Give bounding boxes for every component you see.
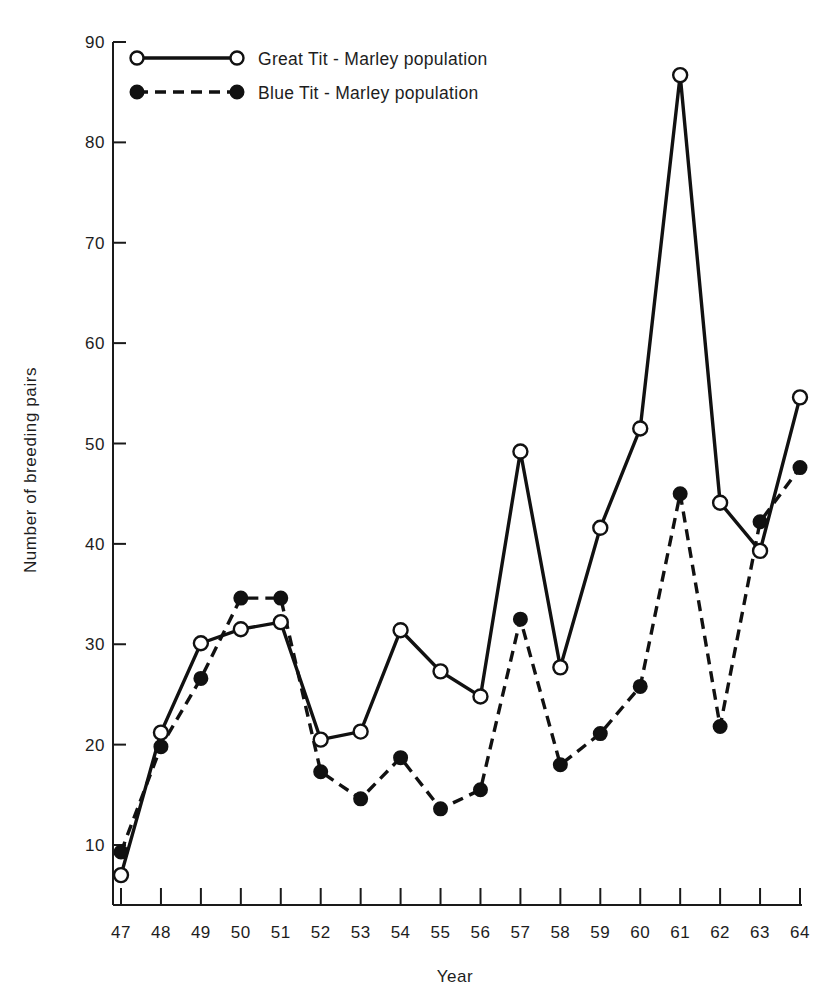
data-point-great-tit [434, 664, 448, 678]
y-tick-label: 70 [85, 234, 105, 253]
data-point-blue-tit [234, 592, 247, 605]
data-point-great-tit [314, 733, 328, 747]
y-tick-label: 30 [85, 635, 105, 654]
data-point-blue-tit [674, 487, 687, 500]
x-tick-label: 48 [151, 923, 171, 942]
x-tick-label: 51 [271, 923, 291, 942]
data-point-great-tit [593, 521, 607, 535]
data-point-blue-tit [394, 751, 407, 764]
data-point-blue-tit [474, 783, 487, 796]
data-point-great-tit [633, 421, 647, 435]
x-tick-label: 54 [391, 923, 411, 942]
data-point-great-tit [194, 636, 208, 650]
data-point-blue-tit [554, 758, 567, 771]
y-tick-label: 90 [85, 33, 105, 52]
legend-marker-open-circle-right [231, 52, 244, 65]
data-point-blue-tit [794, 461, 807, 474]
x-axis-title: Year [437, 967, 474, 986]
x-tick-label: 61 [670, 923, 690, 942]
x-tick-label: 53 [351, 923, 371, 942]
data-point-great-tit [553, 660, 567, 674]
x-tick-label: 59 [590, 923, 610, 942]
data-point-blue-tit [194, 672, 207, 685]
y-tick-label: 40 [85, 535, 105, 554]
x-tick-label: 55 [431, 923, 451, 942]
x-tick-label: 62 [710, 923, 730, 942]
legend-marker-filled-circle-right [231, 86, 244, 99]
data-point-great-tit [513, 445, 527, 459]
x-tick-label: 63 [750, 923, 770, 942]
x-tick-label: 56 [471, 923, 491, 942]
data-point-great-tit [354, 725, 368, 739]
y-tick-label: 80 [85, 133, 105, 152]
y-axis-title: Number of breeding pairs [21, 367, 40, 573]
data-point-blue-tit [514, 613, 527, 626]
data-point-great-tit [114, 868, 128, 882]
x-tick-label: 58 [550, 923, 570, 942]
legend-marker-filled-circle-left [131, 86, 144, 99]
y-tick-label: 50 [85, 435, 105, 454]
legend-label-great-tit: Great Tit - Marley population [258, 49, 488, 69]
data-point-blue-tit [754, 515, 767, 528]
data-point-blue-tit [634, 680, 647, 693]
y-tick-label: 20 [85, 736, 105, 755]
legend-marker-open-circle-left [131, 52, 144, 65]
breeding-pairs-line-chart: 102030405060708090 Number of breeding pa… [0, 0, 816, 1005]
data-point-great-tit [673, 68, 687, 82]
data-point-great-tit [713, 496, 727, 510]
x-tick-label: 47 [111, 923, 131, 942]
data-point-great-tit [154, 726, 168, 740]
data-point-great-tit [234, 622, 248, 636]
data-point-blue-tit [594, 727, 607, 740]
data-point-great-tit [793, 390, 807, 404]
data-point-blue-tit [714, 720, 727, 733]
x-tick-label: 52 [311, 923, 331, 942]
y-tick-label: 60 [85, 334, 105, 353]
x-tick-label: 50 [231, 923, 251, 942]
x-tick-label: 49 [191, 923, 211, 942]
data-point-great-tit [274, 615, 288, 629]
x-tick-label: 57 [510, 923, 530, 942]
data-point-blue-tit [354, 792, 367, 805]
data-point-blue-tit [314, 765, 327, 778]
x-tick-label: 64 [790, 923, 810, 942]
data-point-great-tit [473, 689, 487, 703]
y-tick-label: 10 [85, 836, 105, 855]
data-point-blue-tit [434, 802, 447, 815]
legend-label-blue-tit: Blue Tit - Marley population [258, 83, 478, 103]
data-point-blue-tit [274, 592, 287, 605]
data-point-blue-tit [115, 846, 128, 859]
x-tick-label: 60 [630, 923, 650, 942]
data-point-great-tit [394, 623, 408, 637]
data-point-great-tit [753, 544, 767, 558]
data-point-blue-tit [154, 740, 167, 753]
